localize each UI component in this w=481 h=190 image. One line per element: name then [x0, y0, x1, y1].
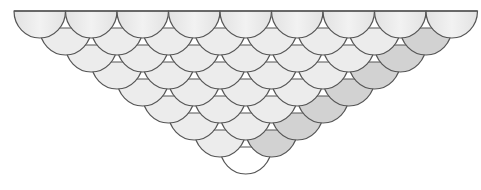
scallop-triangle-diagram	[0, 0, 481, 190]
